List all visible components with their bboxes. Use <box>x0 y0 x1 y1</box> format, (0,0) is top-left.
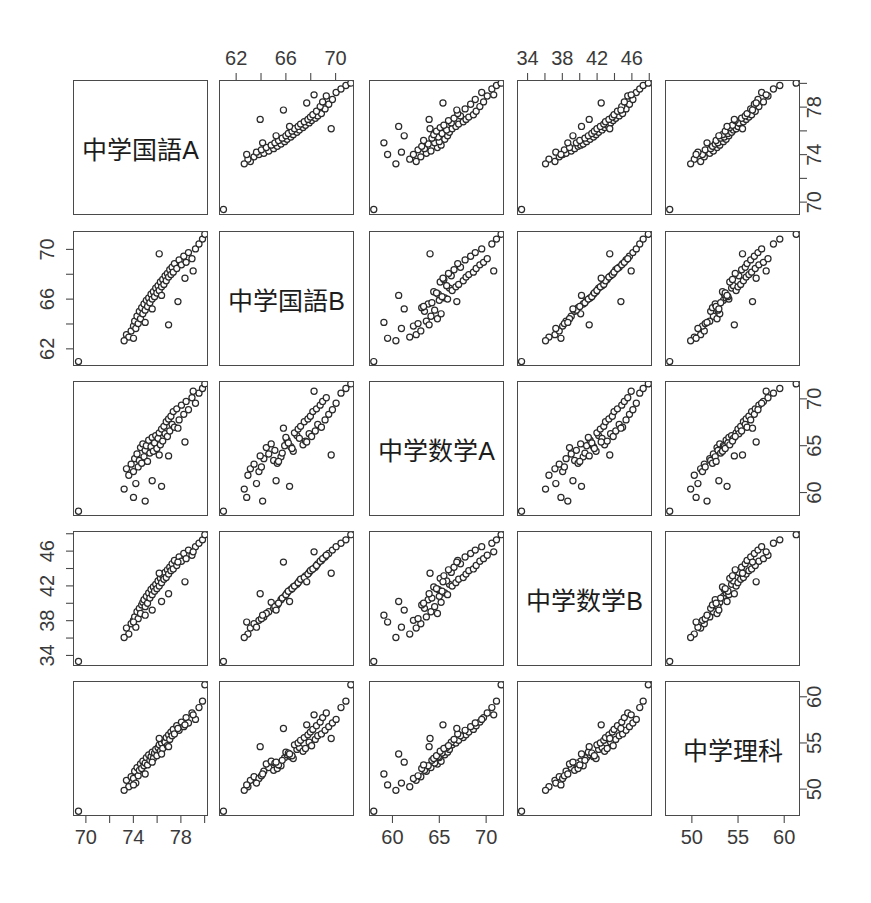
scatter-points <box>666 81 799 214</box>
scatter-panel-kokugoA-vs-suugakuB <box>73 531 208 666</box>
scatter-panel-suugakuB-vs-rika <box>517 681 652 816</box>
bottom-axis-kokugoA: 707478 <box>73 816 208 850</box>
scatter-panel-suugakuA-vs-suugakuB <box>369 531 504 666</box>
scatter-panel-kokugoB-vs-rika <box>219 681 354 816</box>
scatter-points <box>370 232 503 365</box>
bottom-axis-rika: 505560 <box>665 816 800 850</box>
right-axis-rika: 505560 <box>800 681 834 816</box>
scatter-points <box>518 232 651 365</box>
scatter-points <box>220 382 353 515</box>
left-axis-kokugoB: 626670 <box>39 231 73 366</box>
right-axis-kokugoA: 707478 <box>800 80 834 215</box>
top-axis-suugakuB: 34384246 <box>517 46 652 80</box>
tick-label: 46 <box>621 47 643 69</box>
scatter-panel-rika-vs-kokugoA <box>665 80 800 215</box>
tick-label: 50 <box>681 826 703 848</box>
tick-label: 42 <box>36 575 58 597</box>
tick-label: 66 <box>36 288 58 310</box>
tick-label: 60 <box>381 826 403 848</box>
tick-label: 66 <box>275 47 297 69</box>
scatter-points <box>74 532 207 665</box>
scatter-points <box>370 682 503 815</box>
tick-label: 34 <box>36 644 58 666</box>
scatterplot-matrix: 中学国語A中学国語B中学数学A中学数学B中学理科6266703438424670… <box>0 0 871 903</box>
scatter-points <box>370 532 503 665</box>
scatter-panel-kokugoA-vs-kokugoB <box>73 231 208 366</box>
tick-label: 62 <box>36 338 58 360</box>
tick-label: 70 <box>475 826 497 848</box>
scatter-panel-kokugoB-vs-kokugoA <box>219 80 354 215</box>
bottom-axis-suugakuA: 606570 <box>369 816 504 850</box>
scatter-panel-rika-vs-suugakuA <box>665 381 800 516</box>
diagonal-panel-kokugoB <box>219 231 354 366</box>
scatter-points <box>220 682 353 815</box>
tick-label: 34 <box>516 47 538 69</box>
scatter-points <box>74 232 207 365</box>
tick-label: 78 <box>803 96 825 118</box>
tick-label: 42 <box>586 47 608 69</box>
tick-label: 60 <box>803 481 825 503</box>
tick-label: 74 <box>803 144 825 166</box>
left-axis-suugakuB: 34384246 <box>39 531 73 666</box>
tick-label: 70 <box>803 191 825 213</box>
scatter-panel-rika-vs-suugakuB <box>665 531 800 666</box>
tick-label: 78 <box>170 826 192 848</box>
scatter-panel-kokugoA-vs-rika <box>73 681 208 816</box>
tick-label: 65 <box>803 435 825 457</box>
tick-label: 55 <box>803 732 825 754</box>
scatter-panel-suugakuB-vs-suugakuA <box>517 381 652 516</box>
scatter-points <box>74 382 207 515</box>
scatter-panel-kokugoB-vs-suugakuB <box>219 531 354 666</box>
tick-label: 62 <box>225 47 247 69</box>
diagonal-panel-suugakuB <box>517 531 652 666</box>
scatter-panel-rika-vs-kokugoB <box>665 231 800 366</box>
tick-label: 55 <box>727 826 749 848</box>
scatter-panel-kokugoA-vs-suugakuA <box>73 381 208 516</box>
scatter-panel-kokugoB-vs-suugakuA <box>219 381 354 516</box>
scatter-points <box>666 532 799 665</box>
tick-label: 60 <box>773 826 795 848</box>
scatter-points <box>220 532 353 665</box>
scatter-points <box>74 682 207 815</box>
right-axis-suugakuA: 606570 <box>800 381 834 516</box>
tick-label: 65 <box>428 826 450 848</box>
scatter-points <box>518 81 651 214</box>
scatter-points <box>370 81 503 214</box>
tick-label: 46 <box>36 540 58 562</box>
diagonal-panel-rika <box>665 681 800 816</box>
tick-label: 70 <box>36 238 58 260</box>
scatter-points <box>666 232 799 365</box>
scatter-panel-suugakuB-vs-kokugoA <box>517 80 652 215</box>
tick-label: 74 <box>122 826 144 848</box>
scatter-points <box>518 682 651 815</box>
tick-label: 70 <box>324 47 346 69</box>
tick-label: 38 <box>36 610 58 632</box>
scatter-points <box>220 81 353 214</box>
tick-label: 70 <box>75 826 97 848</box>
tick-label: 38 <box>551 47 573 69</box>
top-axis-kokugoB: 626670 <box>219 46 354 80</box>
tick-label: 70 <box>803 388 825 410</box>
tick-label: 50 <box>803 778 825 800</box>
diagonal-panel-kokugoA <box>73 80 208 215</box>
scatter-panel-suugakuB-vs-kokugoB <box>517 231 652 366</box>
scatter-panel-suugakuA-vs-rika <box>369 681 504 816</box>
scatter-panel-suugakuA-vs-kokugoA <box>369 80 504 215</box>
scatter-panel-suugakuA-vs-kokugoB <box>369 231 504 366</box>
scatter-points <box>518 382 651 515</box>
diagonal-panel-suugakuA <box>369 381 504 516</box>
scatter-points <box>666 382 799 515</box>
tick-label: 60 <box>803 686 825 708</box>
